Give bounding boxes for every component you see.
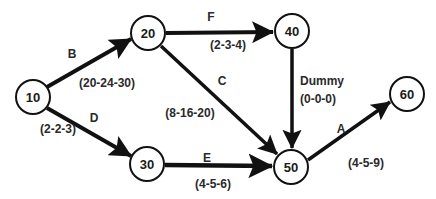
svg-text:20: 20 (141, 26, 155, 41)
times-label-dummy: (0-0-0) (300, 92, 336, 106)
activity-label-C: C (218, 74, 227, 88)
svg-text:40: 40 (285, 24, 299, 39)
times-label-F: (2-3-4) (210, 38, 246, 52)
pert-diagram: 10 20 30 40 50 60 B (20-24-30) D (2-2-3)… (0, 0, 436, 199)
svg-text:10: 10 (26, 90, 40, 105)
edge-A (308, 102, 390, 160)
activity-label-F: F (207, 10, 214, 24)
activity-label-D: D (90, 111, 99, 125)
times-label-B: (20-24-30) (79, 76, 135, 90)
svg-text:50: 50 (284, 160, 298, 175)
node-40: 40 (275, 14, 309, 48)
times-label-E: (4-5-6) (195, 177, 231, 191)
node-60: 60 (390, 77, 424, 111)
node-10: 10 (16, 80, 50, 114)
activity-label-dummy: Dummy (300, 74, 344, 88)
times-label-A: (4-5-9) (348, 156, 384, 170)
activity-label-E: E (203, 151, 211, 165)
activity-label-B: B (68, 47, 77, 61)
svg-text:30: 30 (140, 157, 154, 172)
edge-E (165, 165, 272, 166)
node-50: 50 (274, 150, 308, 184)
node-30: 30 (130, 147, 164, 181)
times-label-D: (2-2-3) (40, 122, 76, 136)
svg-text:60: 60 (400, 87, 414, 102)
edge-C (161, 46, 277, 154)
node-20: 20 (131, 16, 165, 50)
times-label-C: (8-16-20) (165, 106, 214, 120)
activity-label-A: A (337, 122, 346, 136)
edge-F (166, 32, 273, 33)
